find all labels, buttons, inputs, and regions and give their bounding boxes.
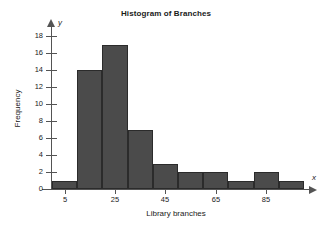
x-axis-tick (115, 190, 116, 194)
y-axis-tick-label: 8 (3, 117, 43, 125)
bars-layer (52, 28, 304, 189)
y-axis-tick-label: 14 (3, 66, 43, 74)
y-axis-tick-label: 12 (3, 83, 43, 91)
y-axis-letter: y (58, 18, 62, 27)
x-axis-tick (65, 190, 66, 194)
y-axis-tick-label: 16 (3, 49, 43, 57)
histogram-bar (279, 181, 304, 189)
histogram-bar (203, 172, 228, 189)
x-axis-tick-label: 45 (150, 196, 180, 204)
y-axis-tick-label: 10 (3, 100, 43, 108)
histogram-bar (254, 172, 279, 189)
x-axis-line (42, 189, 310, 190)
x-axis-tick-label: 25 (100, 196, 130, 204)
x-axis-tick-label: 65 (201, 196, 231, 204)
y-axis-tick (46, 189, 57, 190)
y-axis-tick-label: 2 (3, 168, 43, 176)
y-axis-tick-label: 0 (3, 185, 43, 193)
histogram-bar (228, 181, 253, 189)
y-axis-arrow-icon (47, 19, 55, 27)
histogram-bar (52, 181, 77, 189)
y-axis-tick-label: 18 (3, 32, 43, 40)
x-axis-tick (266, 190, 267, 194)
y-axis-tick-label: 6 (3, 134, 43, 142)
x-axis-arrow-icon (309, 186, 317, 194)
x-axis-tick (216, 190, 217, 194)
x-axis-letter: x (312, 173, 316, 182)
histogram-bar (153, 164, 178, 189)
histogram-bar (128, 130, 153, 189)
x-axis-tick-label: 85 (251, 196, 281, 204)
histogram-figure: Histogram of Branches y x 02468101214161… (0, 0, 332, 239)
y-axis-title: Frequency (13, 69, 22, 149)
x-axis-title: Library branches (52, 209, 300, 218)
histogram-bar (102, 45, 127, 189)
y-axis-tick-label: 4 (3, 151, 43, 159)
histogram-bar (77, 70, 102, 189)
x-axis-tick (165, 190, 166, 194)
x-axis-tick-label: 5 (50, 196, 80, 204)
chart-title: Histogram of Branches (0, 9, 332, 18)
histogram-bar (178, 172, 203, 189)
